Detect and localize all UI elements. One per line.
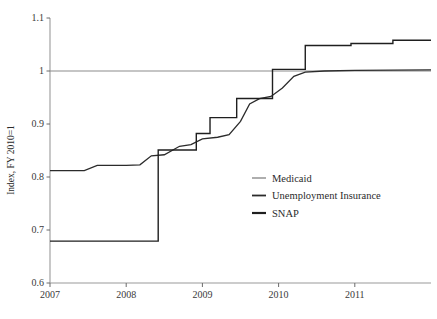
x-tick-label: 2010 — [269, 289, 289, 300]
legend-label: Unemployment Insurance — [272, 190, 381, 201]
legend-label: Medicaid — [272, 173, 312, 184]
chart-container: 0.60.70.80.911.1 20072008200920102011 Me… — [0, 0, 437, 319]
legend-label: SNAP — [272, 208, 299, 219]
x-tick-label: 2011 — [345, 289, 365, 300]
line-chart: 0.60.70.80.911.1 20072008200920102011 Me… — [0, 0, 437, 319]
chart-background — [0, 0, 437, 319]
x-tick-label: 2009 — [192, 289, 212, 300]
y-axis-title: Index, FY 2010=1 — [6, 125, 16, 195]
y-tick-label: 1 — [39, 65, 44, 76]
y-tick-label: 1.1 — [32, 12, 45, 23]
x-tick-label: 2008 — [116, 289, 136, 300]
x-tick-label: 2007 — [40, 289, 60, 300]
y-tick-label: 0.6 — [32, 277, 45, 288]
y-tick-label: 0.7 — [32, 224, 45, 235]
y-tick-label: 0.8 — [32, 171, 45, 182]
y-tick-label: 0.9 — [32, 118, 45, 129]
